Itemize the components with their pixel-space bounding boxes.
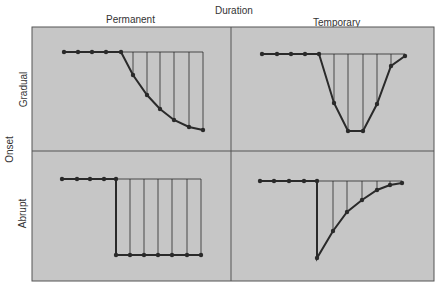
gradual-permanent-data-point [119,50,123,54]
abrupt-temporary-data-point [345,210,349,214]
abrupt-temporary-data-point [388,183,392,187]
abrupt-temporary-data-point [375,188,379,192]
gradual-temporary-data-point [289,52,293,56]
abrupt-temporary-data-point [331,229,335,233]
abrupt-temporary-data-point [400,181,404,185]
gradual-temporary-data-point [361,129,365,133]
abrupt-permanent-data-point [185,253,189,257]
gradual-temporary-data-point [375,102,379,106]
abrupt-temporary-data-point [258,179,262,183]
gradual-temporary-data-point [317,52,321,56]
abrupt-permanent-data-point [170,253,174,257]
gradual-permanent-data-point [90,50,94,54]
gradual-permanent-data-point [104,50,108,54]
gradual-temporary-data-point [332,101,336,105]
abrupt-temporary-data-point [287,179,291,183]
gradual-temporary-data-point [260,52,264,56]
abrupt-permanent-data-point [156,253,160,257]
gradual-permanent-data-point [201,128,205,132]
gradual-temporary-data-point [389,64,393,68]
abrupt-permanent-data-point [142,253,146,257]
abrupt-permanent-data-point [199,253,203,257]
panel-frame [32,27,434,281]
gradual-temporary-data-point [403,54,407,58]
gradual-temporary-data-point [303,52,307,56]
gradual-permanent-data-point [76,50,80,54]
gradual-permanent-data-point [145,93,149,97]
abrupt-permanent-data-point [60,177,64,181]
onset-duration-diagram [0,0,439,287]
abrupt-permanent-data-point [75,177,79,181]
gradual-temporary-data-point [346,129,350,133]
abrupt-permanent-data-point [88,177,92,181]
abrupt-temporary-data-point [272,179,276,183]
gradual-permanent-data-point [158,107,162,111]
abrupt-permanent-data-point [102,177,106,181]
gradual-permanent-data-point [187,125,191,129]
gradual-permanent-data-point [172,118,176,122]
gradual-permanent-data-point [131,73,135,77]
abrupt-permanent-data-point [114,253,118,257]
abrupt-permanent-data-point [114,177,118,181]
gradual-permanent-data-point [62,50,66,54]
abrupt-temporary-data-point [360,198,364,202]
abrupt-temporary-data-point [315,256,319,260]
abrupt-temporary-data-point [302,179,306,183]
gradual-temporary-data-point [275,52,279,56]
abrupt-permanent-data-point [128,253,132,257]
abrupt-temporary-data-point [315,179,319,183]
